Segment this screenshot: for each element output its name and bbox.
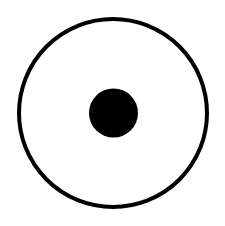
circled-dot-icon	[0, 0, 225, 226]
center-dot	[89, 89, 138, 138]
circled-dot-figure	[0, 0, 225, 226]
